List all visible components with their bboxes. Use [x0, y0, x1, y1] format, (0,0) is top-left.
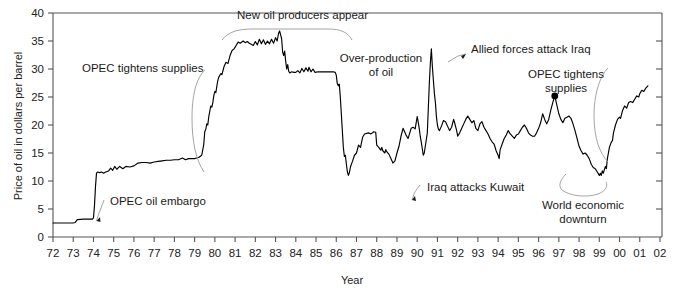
y-tick-label: 30 [31, 63, 44, 75]
annotation-over-production-line1: Over-production [340, 52, 422, 64]
x-tick-label: 79 [188, 247, 201, 259]
y-axis-title: Price of oil in dollars per barrel [12, 52, 24, 201]
y-tick-label: 20 [31, 119, 44, 131]
x-tick-label: 87 [350, 247, 363, 259]
annotation-opec-oil-embargo: OPEC oil embargo [110, 195, 206, 207]
x-tick-label: 98 [573, 247, 586, 259]
annotation-over-production-line2: of oil [369, 66, 393, 78]
annotation-world-economic-downturn-line1: World economic [542, 199, 624, 211]
x-tick-label: 74 [87, 247, 100, 259]
x-tick-label: 92 [451, 247, 464, 259]
annotation-allied-forces-attack-iraq: Allied forces attack Iraq [471, 43, 591, 55]
leader-opec-oil-embargo [97, 200, 105, 221]
annotation-new-oil-producers-appear: New oil producers appear [237, 9, 368, 21]
y-tick-label: 35 [31, 35, 44, 47]
y-tick-label: 40 [31, 7, 44, 19]
x-tick-label: 73 [67, 247, 80, 259]
annotation-opec-tightens-supplies-2-line2: supplies [545, 82, 587, 94]
annotation-world-economic-downturn-line2: downturn [559, 213, 606, 225]
y-tick-label: 0 [38, 231, 44, 243]
x-tick-label: 81 [229, 247, 242, 259]
x-tick-label: 78 [168, 247, 181, 259]
x-tick-label: 01 [633, 247, 646, 259]
annotation-opec-tightens-supplies-2-line1: OPEC tightens [528, 68, 604, 80]
x-tick-label: 90 [411, 247, 424, 259]
x-tick-label: 00 [613, 247, 626, 259]
x-tick-group: 7273747576777879808182838485868788899091… [47, 237, 667, 259]
x-tick-label: 77 [148, 247, 161, 259]
y-tick-label: 25 [31, 91, 44, 103]
y-tick-label: 5 [38, 203, 44, 215]
annotation-iraq-attacks-kuwait: Iraq attacks Kuwait [427, 181, 525, 193]
leader-iraq-attacks-kuwait [412, 185, 420, 200]
chart-canvas: 0510152025303540 72737475767778798081828… [0, 0, 679, 302]
x-tick-label: 88 [370, 247, 383, 259]
x-tick-label: 82 [249, 247, 262, 259]
right-tick-group [656, 41, 662, 209]
x-tick-label: 02 [654, 247, 667, 259]
x-tick-label: 93 [472, 247, 485, 259]
x-axis-title: Year [341, 274, 364, 286]
x-tick-label: 86 [330, 247, 343, 259]
leader-opec-tightens-supplies-2 [594, 68, 608, 162]
annotation-opec-tightens-supplies-1: OPEC tightens supplies [82, 62, 204, 74]
leader-new-oil-producers [222, 29, 352, 40]
y-tick-label: 10 [31, 175, 44, 187]
oil-price-chart: 0510152025303540 72737475767778798081828… [0, 0, 679, 302]
x-tick-label: 75 [107, 247, 120, 259]
leader-world-economic-downturn [560, 174, 607, 196]
x-tick-label: 94 [492, 247, 505, 259]
x-tick-label: 72 [47, 247, 60, 259]
x-tick-label: 84 [289, 247, 302, 259]
x-tick-label: 83 [269, 247, 282, 259]
x-tick-label: 96 [532, 247, 545, 259]
x-tick-label: 91 [431, 247, 444, 259]
x-tick-label: 95 [512, 247, 525, 259]
x-tick-label: 89 [391, 247, 404, 259]
x-tick-label: 85 [310, 247, 323, 259]
leader-opec-tightens-supplies-1 [192, 70, 205, 172]
y-tick-label: 15 [31, 147, 44, 159]
x-tick-label: 99 [593, 247, 606, 259]
y-tick-group: 0510152025303540 [31, 7, 53, 243]
x-tick-label: 97 [552, 247, 565, 259]
x-tick-label: 80 [208, 247, 221, 259]
x-tick-label: 76 [128, 247, 141, 259]
